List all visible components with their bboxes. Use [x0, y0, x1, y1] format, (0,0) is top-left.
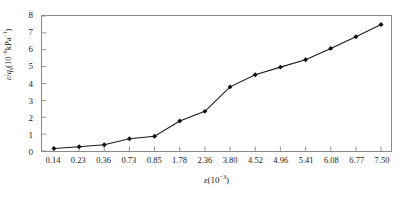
y-tick-label: 1	[29, 130, 34, 139]
x-axis-tick-labels: 0.140.230.360.730.851.782.363.804.524.96…	[41, 155, 392, 169]
y-tick-label: 8	[29, 11, 34, 20]
y-title-q-subscript: s	[8, 68, 14, 70]
y-title-close: )	[3, 29, 13, 32]
x-tick-label: 5.41	[299, 155, 314, 166]
y-tick-label: 3	[29, 96, 34, 105]
y-title-q: q	[3, 70, 13, 74]
x-tick-label: 4.52	[248, 155, 263, 166]
data-point-marker	[152, 134, 157, 139]
x-tick-label: 0.36	[96, 155, 111, 166]
data-point-marker	[278, 65, 283, 70]
x-axis-title: ε(10−3)	[41, 172, 392, 186]
y-axis-title: ε/qs(10−6kPa−1)	[0, 12, 16, 96]
y-tick-label: 2	[29, 113, 34, 122]
chart-figure: 012345678 ε/qs(10−6kPa−1) 0.140.230.360.…	[0, 0, 410, 202]
data-point-marker	[127, 136, 132, 141]
y-tick-label: 6	[29, 45, 34, 54]
x-tick-label: 0.73	[121, 155, 136, 166]
data-point-marker	[353, 34, 358, 39]
data-point-marker	[51, 146, 56, 151]
x-tick-label: 0.85	[147, 155, 162, 166]
data-point-marker	[253, 72, 258, 77]
x-tick-label: 1.78	[172, 155, 187, 166]
data-line	[54, 24, 381, 148]
x-tick-label: 4.96	[273, 155, 288, 166]
x-tick-label: 3.80	[223, 155, 238, 166]
data-point-marker	[177, 118, 182, 123]
data-point-marker	[303, 57, 308, 62]
x-title-open: (10	[208, 175, 220, 185]
data-point-marker	[328, 46, 333, 51]
y-title-slash: /	[3, 74, 13, 76]
x-tick-label: 0.14	[46, 155, 61, 166]
data-point-marker	[102, 142, 107, 147]
x-tick-label: 6.08	[324, 155, 339, 166]
y-tick-label: 5	[29, 62, 34, 71]
y-title-open: (10	[3, 56, 13, 67]
axis-ticks	[42, 16, 381, 151]
y-tick-label: 7	[29, 28, 34, 37]
plot-area	[41, 15, 392, 152]
data-point-marker	[77, 144, 82, 149]
data-series-svg	[42, 16, 391, 151]
x-title-close: )	[226, 175, 229, 185]
y-title-unit: kPa	[3, 38, 13, 51]
data-markers	[51, 22, 383, 151]
y-title-epsilon: ε	[3, 77, 13, 80]
x-tick-label: 2.36	[197, 155, 212, 166]
y-title-exponent-six: −6	[2, 50, 8, 56]
x-tick-label: 0.23	[71, 155, 86, 166]
y-title-exponent-one: −1	[2, 31, 8, 37]
data-point-marker	[379, 22, 384, 27]
x-tick-label: 6.77	[349, 155, 364, 166]
y-tick-label: 4	[29, 79, 34, 88]
y-tick-label: 0	[29, 148, 34, 157]
x-tick-label: 7.50	[375, 155, 390, 166]
